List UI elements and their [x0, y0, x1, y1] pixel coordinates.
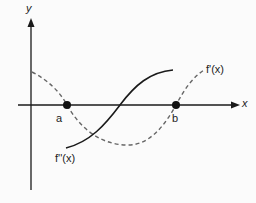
point-b — [172, 101, 180, 109]
point-a-label: a — [56, 112, 62, 124]
f-prime-label: f'(x) — [206, 63, 224, 75]
y-axis-label: y — [26, 2, 32, 14]
point-a — [63, 101, 71, 109]
point-b-label: b — [172, 112, 178, 124]
f-double-prime-label: f''(x) — [55, 152, 75, 164]
y-axis-arrow-icon — [28, 18, 35, 27]
x-axis-label: x — [242, 97, 248, 109]
diagram: y x a b f'(x) f''(x) — [0, 0, 256, 203]
f-double-prime-curve — [66, 70, 173, 148]
x-axis-arrow-icon — [231, 102, 240, 109]
plot-svg — [0, 0, 256, 203]
